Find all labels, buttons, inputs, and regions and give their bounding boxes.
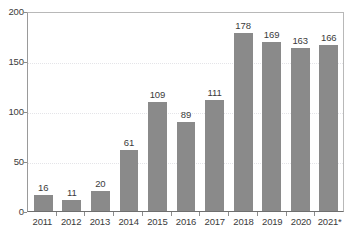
y-axis-tick-label: 100 [0, 107, 24, 117]
bar-value-label: 89 [181, 110, 191, 120]
bar[interactable]: 109 [148, 102, 167, 211]
bar[interactable]: 16 [34, 195, 53, 211]
x-axis-tick-label: 2017 [200, 216, 229, 228]
x-axis-tick-label: 2020 [287, 216, 316, 228]
bar-value-label: 169 [264, 30, 280, 40]
x-axis-tick-label: 2013 [85, 216, 114, 228]
bar-value-label: 163 [292, 36, 308, 46]
x-axis-tick-label: 2021* [315, 216, 344, 228]
bar-slot: 16 [29, 13, 58, 211]
y-axis-tick-label: 150 [0, 57, 24, 67]
bar-slot: 169 [257, 13, 286, 211]
bar-slot: 166 [314, 13, 343, 211]
bar[interactable]: 178 [234, 33, 253, 211]
bar-value-label: 109 [150, 90, 166, 100]
bar-chart: 050100150200 161120611098911117816916316… [0, 0, 346, 237]
x-axis-tick-label: 2011 [28, 216, 57, 228]
y-axis-tick-label: 0 [0, 207, 24, 217]
x-axis-tick-label: 2015 [143, 216, 172, 228]
bar[interactable]: 111 [205, 100, 224, 211]
bar-slot: 20 [86, 13, 115, 211]
bar[interactable]: 20 [91, 191, 110, 211]
bar-slot: 11 [58, 13, 87, 211]
x-axis-tick-label: 2016 [172, 216, 201, 228]
x-axis: 2011201220132014201520162017201820192020… [27, 212, 344, 237]
bar-value-label: 11 [67, 188, 77, 198]
bar-value-label: 16 [38, 183, 48, 193]
y-axis-tick-label: 200 [0, 7, 24, 17]
y-axis-tick-label: 50 [0, 157, 24, 167]
bar-value-label: 111 [207, 88, 221, 98]
x-axis-tick-label: 2018 [229, 216, 258, 228]
bar-value-label: 178 [235, 21, 251, 31]
bar-slot: 61 [115, 13, 144, 211]
bar-value-label: 61 [124, 138, 134, 148]
x-axis-tick-label: 2014 [114, 216, 143, 228]
bar-value-label: 166 [321, 33, 337, 43]
bar-slot: 109 [143, 13, 172, 211]
bar-value-label: 20 [95, 179, 105, 189]
bar-slot: 111 [200, 13, 229, 211]
bar-series: 1611206110989111178169163166 [29, 13, 343, 211]
bar[interactable]: 163 [291, 48, 310, 211]
bar-slot: 89 [172, 13, 201, 211]
bar[interactable]: 89 [177, 122, 196, 211]
x-axis-tick-label: 2019 [258, 216, 287, 228]
x-axis-labels: 2011201220132014201520162017201820192020… [28, 216, 344, 228]
y-axis-labels: 050100150200 [0, 0, 24, 237]
bar[interactable]: 166 [319, 45, 338, 211]
plot-area: 1611206110989111178169163166 [27, 12, 344, 212]
x-axis-tick-label: 2012 [57, 216, 86, 228]
bar-slot: 178 [229, 13, 258, 211]
bar-slot: 163 [286, 13, 315, 211]
bar[interactable]: 11 [62, 200, 81, 211]
bar[interactable]: 169 [262, 42, 281, 211]
bar[interactable]: 61 [120, 150, 139, 211]
